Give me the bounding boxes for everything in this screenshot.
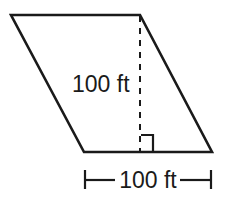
height-label: 100 ft bbox=[72, 71, 130, 97]
parallelogram-diagram-svg: 100 ft 100 ft bbox=[0, 0, 225, 200]
geometry-figure: 100 ft 100 ft bbox=[0, 0, 225, 200]
base-label: 100 ft bbox=[119, 167, 177, 193]
